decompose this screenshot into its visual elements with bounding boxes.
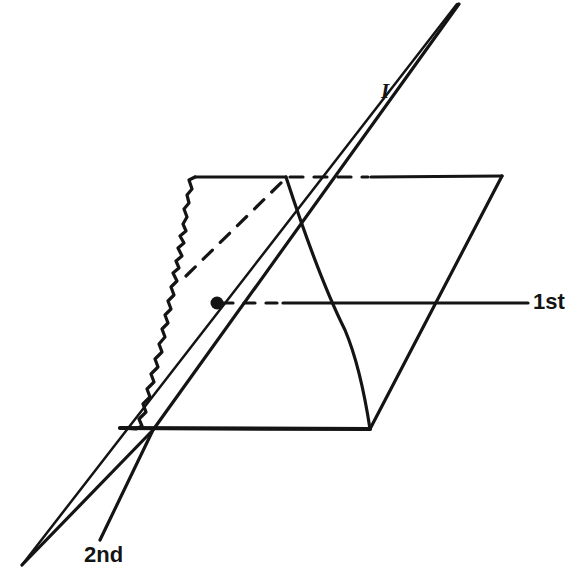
intersection-point-dot	[211, 297, 224, 310]
second-plane-label: 2nd	[84, 544, 123, 566]
hidden-trace-dashed-diagonal	[186, 177, 287, 276]
second-plane-outer-edge	[22, 4, 457, 565]
first-plane-top-edge-right	[371, 176, 502, 177]
incident-ray-label: I	[381, 81, 389, 102]
second-plane-tail-edge	[100, 430, 153, 540]
first-plane-bottom-edge	[120, 428, 370, 429]
figure-root: 1st 2nd I	[0, 0, 573, 586]
first-plane-label: 1st	[533, 291, 565, 313]
diagram-canvas	[0, 0, 573, 586]
